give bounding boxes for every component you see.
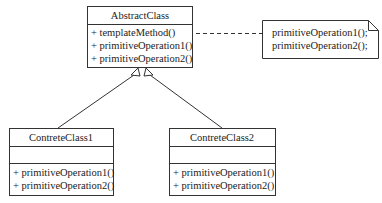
concrete-class-1-box: ContreteClass1 + primitiveOperation1() +…	[10, 129, 115, 196]
abstract-class-operation: + primitiveOperation2()	[91, 53, 193, 65]
abstract-class-name: AbstractClass	[111, 10, 169, 21]
generalization-line-2	[150, 75, 222, 128]
inheritance-arrowhead-icon	[144, 68, 153, 76]
abstract-class-operation: + templateMethod()	[91, 27, 176, 39]
concrete-class-1-operation: + primitiveOperation1()	[13, 167, 115, 179]
abstract-class-operation: + primitiveOperation1()	[91, 40, 193, 52]
concrete-class-2-box: ContreteClass2 + primitiveOperation1() +…	[170, 129, 276, 196]
abstract-class-box: AbstractClass + templateMethod() + primi…	[88, 7, 193, 68]
concrete-class-1-name: ContreteClass1	[29, 132, 93, 143]
uml-diagram: AbstractClass + templateMethod() + primi…	[0, 0, 382, 203]
generalization-line-1	[58, 75, 134, 128]
concrete-class-2-operation: + primitiveOperation1()	[173, 167, 275, 179]
note-box: primitiveOperation1(); primitiveOperatio…	[263, 21, 379, 59]
concrete-class-2-operation: + primitiveOperation2()	[173, 180, 275, 192]
concrete-class-1-operation: + primitiveOperation2()	[13, 180, 115, 192]
concrete-class-2-name: ContreteClass2	[190, 132, 254, 143]
inheritance-arrowhead-icon	[131, 68, 140, 76]
note-line: primitiveOperation2();	[272, 40, 368, 52]
note-line: primitiveOperation1();	[272, 27, 368, 39]
